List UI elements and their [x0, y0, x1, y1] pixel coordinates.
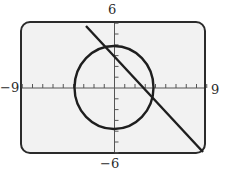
xmin-label: −9 — [0, 81, 19, 94]
xmax-label: 9 — [211, 83, 219, 96]
calculator-graph — [0, 0, 225, 171]
ymax-label: 6 — [108, 3, 116, 16]
ymin-label: −6 — [100, 157, 119, 170]
